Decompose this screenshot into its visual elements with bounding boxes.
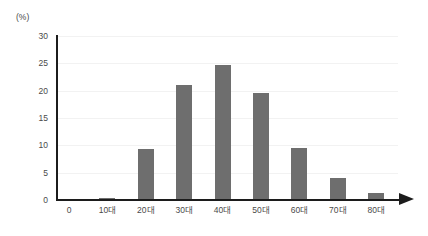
x-axis-tick-label: 10대	[85, 206, 129, 215]
x-axis-arrow-icon	[399, 193, 414, 205]
bar-chart: (%) 051015202530 010대20대30대40대50대60대70대8…	[0, 0, 428, 236]
bar	[253, 93, 269, 200]
x-axis-tick-label: 80대	[354, 206, 398, 215]
bar	[138, 149, 154, 200]
x-axis-tick-label: 30대	[162, 206, 206, 215]
y-axis-tick-label: 10	[39, 141, 48, 150]
x-axis-tick-label: 60대	[277, 206, 321, 215]
x-axis-line	[56, 199, 402, 201]
y-axis-tick-labels: 051015202530	[0, 0, 48, 236]
y-axis-tick-label: 0	[43, 196, 48, 205]
bar	[330, 178, 346, 200]
x-axis-tick-label: 40대	[201, 206, 245, 215]
bar	[215, 65, 231, 200]
x-axis-tick-label: 0	[47, 206, 91, 215]
y-axis-line	[56, 35, 58, 201]
bar	[291, 148, 307, 200]
gridline	[57, 36, 398, 37]
y-axis-tick-label: 5	[43, 169, 48, 178]
y-axis-tick-label: 15	[39, 114, 48, 123]
y-axis-tick-label: 25	[39, 59, 48, 68]
y-axis-tick-label: 20	[39, 87, 48, 96]
x-axis-tick-label: 70대	[316, 206, 360, 215]
plot-area	[57, 36, 415, 200]
y-axis-tick-label: 30	[39, 32, 48, 41]
x-axis-tick-label: 20대	[124, 206, 168, 215]
bar	[176, 85, 192, 200]
x-axis-tick-label: 50대	[239, 206, 283, 215]
